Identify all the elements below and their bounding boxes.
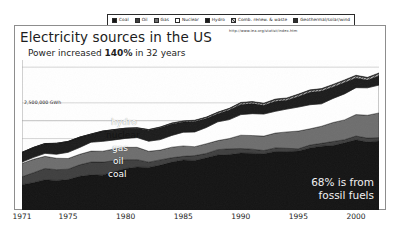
- x-axis-tick-1990: 1990: [231, 212, 250, 221]
- legend-label: Geothermal/solar/wind: [300, 18, 350, 22]
- legend-swatch-icon: [154, 18, 159, 23]
- legend-swatch-icon: [231, 18, 236, 23]
- subtitle-text-before: Power increased: [28, 48, 105, 58]
- chart-subtitle: Power increased 140% in 32 years: [28, 48, 185, 58]
- x-axis-tick-1971: 1971: [12, 212, 31, 221]
- x-axis-tick-1975: 1975: [59, 212, 78, 221]
- x-axis-tick-1985: 1985: [174, 212, 193, 221]
- band-label-hydro: hydro: [111, 117, 137, 127]
- fossil-fuels-callout: 68% is from fossil fuels: [311, 176, 374, 202]
- band-label-oil: oil: [113, 156, 124, 166]
- legend-item-nuclear[interactable]: Nuclear: [175, 18, 199, 23]
- legend-item-hydro[interactable]: Hydro: [205, 18, 225, 23]
- legend-label: Comb. renew. & waste: [238, 18, 287, 22]
- band-label-gas: gas: [112, 143, 128, 153]
- legend-label: Nuclear: [182, 18, 199, 22]
- subtitle-text-after: in 32 years: [132, 48, 185, 58]
- legend-label: Coal: [119, 18, 129, 22]
- legend-item-geothermal-solar-wind[interactable]: Geothermal/solar/wind: [293, 18, 350, 23]
- legend-item-comb-renew-waste[interactable]: Comb. renew. & waste: [231, 18, 287, 23]
- legend-label: Hydro: [212, 18, 225, 22]
- y-gridline-label: 2,500,000 GWh: [24, 100, 61, 105]
- legend-swatch-icon: [205, 18, 210, 23]
- legend-item-oil[interactable]: Oil: [135, 18, 148, 23]
- legend-swatch-icon: [293, 18, 298, 23]
- band-label-coal: coal: [108, 169, 126, 179]
- legend-swatch-icon: [175, 18, 180, 23]
- legend-item-gas[interactable]: Gas: [154, 18, 169, 23]
- x-axis-tick-1980: 1980: [116, 212, 135, 221]
- x-axis-tick-2000: 2000: [346, 212, 365, 221]
- legend-item-coal[interactable]: Coal: [112, 18, 129, 23]
- x-axis: 1971197519801985199019952000: [22, 212, 379, 228]
- subtitle-percent: 140%: [105, 48, 133, 58]
- legend-swatch-icon: [112, 18, 117, 23]
- page-title: Electricity sources in the US: [20, 29, 212, 45]
- legend-label: Oil: [142, 18, 148, 22]
- legend-label: Gas: [161, 18, 169, 22]
- x-axis-tick-1995: 1995: [289, 212, 308, 221]
- band-label-nuclear: nuclear: [106, 130, 140, 140]
- callout-line-1: 68% is from: [311, 176, 374, 189]
- legend-swatch-icon: [135, 18, 140, 23]
- callout-line-2: fossil fuels: [311, 189, 374, 202]
- source-url: http://www.iea.org/statist/index.htm: [229, 29, 297, 33]
